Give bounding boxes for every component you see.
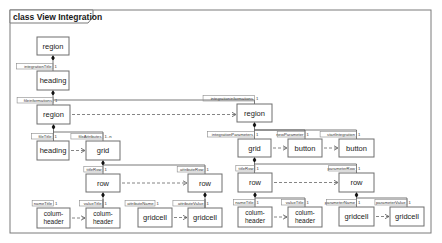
class-box-region: region [37,105,70,124]
class-box-columheader: colum-header [86,208,120,228]
class-name: heading [40,76,67,85]
class-box-heading: heading [37,141,69,160]
role-label: integrationinformations1 [203,96,259,102]
role-name: parameterName [325,200,356,205]
diagram-title: class View Integration [13,12,102,22]
class-name-line1: colum- [93,210,113,217]
class-box-region: region [37,37,69,55]
role-label: fileinformations1 [17,98,58,104]
class-box-gridcell: gridcell [390,207,424,226]
multiplicity: 1..n [105,134,113,139]
class-box-columheader: colum-header [288,207,322,227]
class-name: gridcell [143,213,167,222]
class-name: grid [248,144,261,153]
role-name: attributeName [127,201,154,206]
class-box-columheader: colum-header [238,207,272,227]
class-name: gridcell [345,212,369,221]
role-label: nameTitle1 [234,200,260,206]
class-box-row: row [238,173,272,192]
class-name-line2: header [93,218,114,225]
class-box-columheader: colum-header [37,208,70,228]
role-name: fileAttributes [78,134,101,139]
class-diagram: class View Integration regionheadingregi… [0,0,442,243]
class-name: button [295,144,316,153]
class-box-gridcell: gridcell [138,208,172,227]
class-name: grid [97,146,110,155]
role-name: attributeRow [180,167,204,172]
role-name: integrationTitle [24,64,52,69]
class-name-line2: header [245,217,266,224]
role-name: integrationParameters [212,132,253,137]
class-name: row [350,178,363,187]
role-name: attributeValue [178,201,204,206]
diagram-frame [10,10,431,233]
class-box-row: row [339,173,374,192]
role-name: parameterRow [328,166,356,171]
class-name: region [43,42,64,51]
role-name: titleRow [239,166,255,171]
role-name: integrationinformations [211,96,253,101]
role-name: fileTitle [38,134,52,139]
role-label: startIntegration1 [320,132,361,138]
class-name: gridcell [193,213,217,222]
role-name: startIntegration [327,132,356,137]
class-box-row: row [86,174,120,192]
class-name-line2: header [295,217,316,224]
class-box-gridcell: gridcell [188,208,222,227]
class-name: gridcell [395,212,419,221]
class-box-gridcell: gridcell [339,207,374,226]
role-name: titleRow [87,167,103,172]
role-label: integrationParameters1 [207,132,259,138]
role-name: nameTitle [34,201,53,206]
role-name: fileinformations [24,98,52,103]
class-name: button [346,144,367,153]
role-name: valueTitle [286,200,304,205]
class-box-region: region [237,104,272,122]
class-name: region [43,110,64,119]
role-label: nameTitle1 [32,201,58,207]
class-name: region [244,109,265,118]
role-name: nameTitle [235,200,254,205]
class-box-heading: heading [37,71,69,90]
class-box-button: button [339,139,374,157]
class-name-line1: colum- [295,209,315,216]
class-box-button: button [288,139,322,157]
class-name: row [199,179,212,188]
class-box-row: row [188,174,222,192]
class-name-line1: colum- [44,210,64,217]
role-name: parameterValue [376,200,406,205]
role-name: valueTitle [84,201,102,206]
class-name: row [97,179,110,188]
class-name-line2: header [43,218,64,225]
role-label: valueTitle1 [282,200,310,206]
role-name: newParameter [276,132,304,137]
class-box-grid: grid [86,141,120,160]
class-box-grid: grid [238,139,271,157]
class-name: row [249,178,262,187]
class-name-line1: colum- [245,209,265,216]
role-label: titleRow1 [236,166,260,172]
class-name: heading [40,146,67,155]
role-label: titleRow1 [84,167,108,173]
